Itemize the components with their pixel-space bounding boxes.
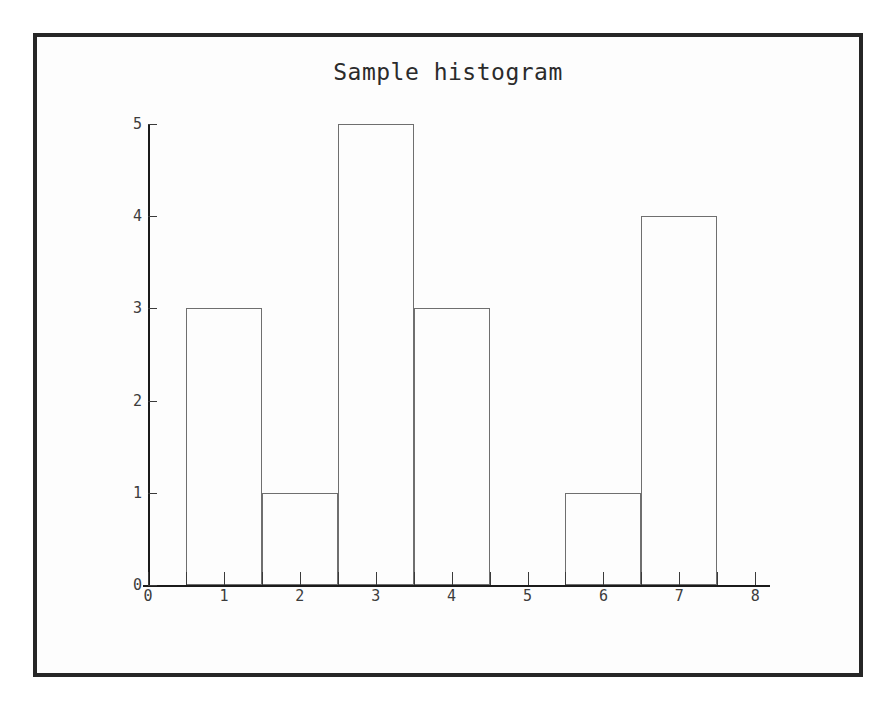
x-axis-tick [641, 572, 642, 585]
x-tick-label: 1 [204, 587, 244, 605]
histogram-bar [338, 124, 414, 585]
y-tick-label: 3 [102, 299, 142, 317]
y-axis-tick [148, 493, 157, 494]
y-axis-tick [148, 216, 157, 217]
page-title: Sample histogram [37, 59, 859, 85]
y-axis-tick [148, 401, 157, 402]
x-tick-label: 8 [735, 587, 775, 605]
x-axis-tick [717, 572, 718, 585]
x-axis-tick [262, 572, 263, 585]
screenshot-root: Sample histogram 012345678012345 [0, 0, 894, 710]
histogram-bar [186, 308, 262, 585]
y-axis-tick [148, 124, 157, 125]
x-tick-label: 6 [583, 587, 623, 605]
y-axis-tick [148, 585, 157, 586]
y-tick-label: 0 [102, 576, 142, 594]
x-tick-label: 7 [659, 587, 699, 605]
histogram-bar [641, 216, 717, 585]
x-axis-tick [679, 572, 680, 585]
x-axis-tick [603, 572, 604, 585]
y-tick-label: 5 [102, 115, 142, 133]
x-axis-tick [452, 572, 453, 585]
y-axis-line [148, 124, 150, 587]
x-axis-tick [414, 572, 415, 585]
x-axis-tick [186, 572, 187, 585]
histogram-bar [414, 308, 490, 585]
x-axis-tick [300, 572, 301, 585]
x-axis-tick [565, 572, 566, 585]
x-axis-tick [224, 572, 225, 585]
x-axis-tick [490, 572, 491, 585]
plot-frame: Sample histogram 012345678012345 [33, 33, 863, 677]
y-tick-label: 1 [102, 484, 142, 502]
x-axis-tick [755, 572, 756, 585]
x-tick-label: 5 [508, 587, 548, 605]
plot-canvas: Sample histogram 012345678012345 [37, 37, 859, 673]
x-axis-tick [376, 572, 377, 585]
x-tick-label: 2 [280, 587, 320, 605]
x-axis-tick [528, 572, 529, 585]
y-axis-tick [148, 308, 157, 309]
x-tick-label: 4 [432, 587, 472, 605]
y-tick-label: 2 [102, 392, 142, 410]
x-axis-tick [148, 572, 149, 585]
x-axis-tick [338, 572, 339, 585]
y-tick-label: 4 [102, 207, 142, 225]
x-tick-label: 3 [356, 587, 396, 605]
